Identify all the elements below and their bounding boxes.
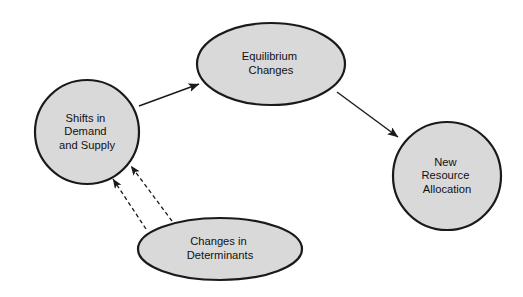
node-equilibrium-changes[interactable]: Equilibrium Changes: [197, 23, 345, 105]
node-equilibrium-label: Equilibrium Changes: [242, 50, 300, 75]
flow-diagram: Shifts in Demand and Supply Equilibrium …: [0, 0, 523, 297]
edge-equilibrium-to-new-resource: [337, 92, 398, 137]
node-shifts-in-demand-and-supply[interactable]: Shifts in Demand and Supply: [35, 80, 139, 184]
node-determinants-label: Changes in Determinants: [187, 235, 254, 261]
node-changes-in-determinants[interactable]: Changes in Determinants: [138, 218, 302, 280]
edge-determinants-to-shifts-right: [131, 166, 172, 221]
node-new-resource-allocation[interactable]: New Resource Allocation: [393, 122, 501, 230]
edge-determinants-to-shifts-left: [113, 179, 146, 229]
diagram-canvas: Shifts in Demand and Supply Equilibrium …: [0, 0, 523, 297]
node-shifts-label: Shifts in Demand and Supply: [59, 111, 115, 150]
edge-shifts-to-equilibrium: [139, 84, 199, 106]
edge-layer: [113, 84, 398, 229]
